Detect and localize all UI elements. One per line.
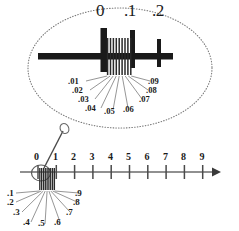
- lens-callout-0point08: .08: [146, 86, 157, 95]
- number-line-callout-0point8: .8: [73, 198, 80, 207]
- number-line-label-1: 1: [53, 152, 58, 162]
- magnified-major-tick-0: [101, 28, 108, 72]
- number-line-callout-0point3: .3: [13, 208, 20, 217]
- magnified-label-0: 0: [96, 2, 104, 19]
- number-line-label-2: 2: [71, 152, 76, 162]
- lens-callout-0point07: .07: [139, 95, 150, 104]
- magnified-label-0point1: .1: [124, 2, 136, 19]
- number-line-label-9: 9: [200, 152, 205, 162]
- number-line-callout-0point2: .2: [7, 198, 14, 207]
- number-line-label-0: 0: [34, 152, 39, 162]
- number-line-callout-0point9: .9: [75, 189, 82, 198]
- number-line-label-6: 6: [145, 152, 150, 162]
- figure-canvas: 0 .1 .2 .01 .02 .03 .04 .05 .06 .07 .08 …: [0, 0, 239, 231]
- magnified-label-0point2: .2: [152, 2, 164, 19]
- number-line-label-5: 5: [126, 152, 131, 162]
- lens-callout-0point09: .09: [148, 77, 159, 86]
- magnified-minor-ticks: [108, 38, 131, 75]
- number-line-callout-0point5: .5: [38, 219, 45, 228]
- number-line-label-4: 4: [108, 152, 113, 162]
- magnifier-handle-knob: [58, 122, 70, 135]
- number-line-label-3: 3: [90, 152, 95, 162]
- number-line-callout-0point6: .6: [54, 218, 61, 227]
- magnifier-lens-outline: [28, 8, 212, 128]
- number-line-arrowhead: [212, 168, 221, 177]
- number-line-label-8: 8: [181, 152, 186, 162]
- figure-vector-layer: [0, 0, 239, 231]
- magnified-major-tick-0point2: [157, 39, 161, 67]
- lens-callout-0point05: .05: [104, 107, 115, 116]
- lens-callout-0point04: .04: [85, 104, 96, 113]
- lens-callout-0point06: .06: [123, 105, 134, 114]
- number-line-label-7: 7: [163, 152, 168, 162]
- magnifier-handle: [44, 131, 63, 168]
- number-line-subdivision-ticks: [40, 168, 55, 190]
- number-line-callout-0point4: .4: [23, 218, 30, 227]
- number-line-callout-0point7: .7: [66, 208, 73, 217]
